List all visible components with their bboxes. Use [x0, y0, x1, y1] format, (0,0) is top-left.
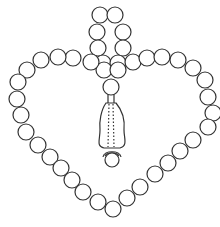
bead-left_arm	[90, 194, 106, 210]
tassel-body	[99, 103, 125, 148]
bead-right_arm	[200, 119, 216, 135]
bead-left_arm	[30, 137, 46, 153]
tassel-pendant	[99, 95, 125, 167]
bead-top_loop	[115, 40, 131, 56]
bead-top_loop	[92, 7, 108, 23]
bead-top_loop	[107, 7, 123, 23]
bead-left_arm	[10, 74, 26, 90]
bead-right_arm	[200, 89, 216, 105]
bead-right_arm	[132, 179, 148, 195]
bead-left_arm	[65, 50, 81, 66]
bead-left_arm	[18, 124, 34, 140]
bead-left_arm	[50, 49, 66, 65]
bead-left_arm	[83, 54, 99, 70]
bead-center_cluster	[110, 62, 126, 78]
pendant-bead	[105, 153, 119, 167]
bead-heart-diagram	[0, 0, 220, 227]
bead-right_arm	[139, 50, 155, 66]
bead-right_arm	[154, 49, 170, 65]
bead-left_arm	[33, 52, 49, 68]
bead-right_arm	[185, 132, 201, 148]
bead-right_arm	[172, 143, 188, 159]
bead-bottom	[105, 201, 121, 217]
bead-top_loop	[89, 24, 105, 40]
bead-right_arm	[147, 166, 163, 182]
tassel-cord	[108, 95, 114, 103]
bead-right_arm	[119, 190, 135, 206]
bead-center_cluster	[103, 79, 119, 95]
bead-right_arm	[170, 52, 186, 68]
bead-right_arm	[185, 60, 201, 76]
bead-right_arm	[197, 72, 213, 88]
bead-left_arm	[13, 107, 29, 123]
bead-right_arm	[160, 155, 176, 171]
bead-top_loop	[115, 24, 131, 40]
bead-left_arm	[9, 91, 25, 107]
bead-left_arm	[75, 184, 91, 200]
